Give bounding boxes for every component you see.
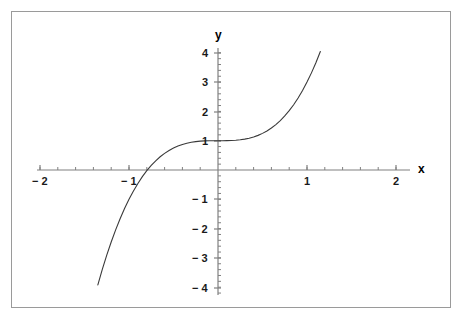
y-tick-label: − 1 (192, 194, 208, 205)
y-tick-label: 2 (202, 107, 208, 118)
figure-root: − 2− 1124321− 1− 2− 3− 4 x y (0, 0, 462, 320)
x-tick-label: − 2 (32, 176, 48, 187)
y-tick-label: 3 (202, 77, 208, 88)
x-axis-label: x (418, 163, 425, 175)
y-tick-label: 4 (202, 48, 208, 59)
y-tick-label: − 2 (192, 224, 208, 235)
axis-lines (37, 48, 410, 295)
data-curve (98, 52, 321, 285)
x-tick-label: − 1 (121, 176, 137, 187)
x-tick-label: 1 (304, 176, 310, 187)
x-tick-label: 2 (393, 176, 399, 187)
y-axis-label: y (215, 29, 222, 41)
plot-canvas (0, 0, 462, 320)
y-tick-label: 1 (202, 136, 208, 147)
y-tick-label: − 3 (192, 253, 208, 264)
y-tick-label: − 4 (192, 283, 208, 294)
